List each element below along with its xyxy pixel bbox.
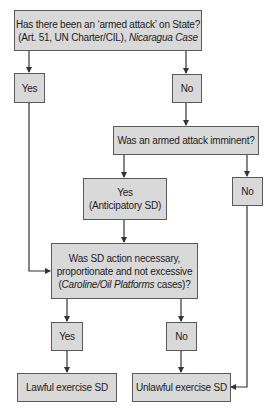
question-armed-attack-line2: (Art. 51, UN Charter/CIL), [18,32,129,43]
question-imminent-attack: Was an armed attack imminent? [113,126,259,155]
question-armed-attack-line1: Has there been an ‘armed attack’ on Stat… [16,19,200,30]
outcome-lawful: Lawful exercise SD [17,373,117,402]
answer-yes-anticipatory-line1: Yes [117,187,133,198]
answer-yes-anticipatory: Yes (Anticipatory SD) [83,178,167,220]
nicaragua-case-citation: Nicaragua Case [129,32,198,43]
answer-no-necessity: No [166,322,197,351]
question-necessity-line3-close: cases)? [154,279,190,290]
answer-yes-necessity: Yes [51,322,83,351]
question-imminent-attack-text: Was an armed attack imminent? [117,134,254,147]
answer-yes-label: Yes [22,82,38,95]
answer-yes-anticipatory-line2: (Anticipatory SD) [89,200,161,211]
answer-no-armed-attack: No [172,74,202,103]
question-necessity-line2: proportionate and not excessive [57,266,193,277]
answer-no-label: No [181,82,193,95]
answer-yes-armed-attack: Yes [14,73,45,103]
outcome-unlawful: Unlawful exercise SD [132,373,231,402]
question-necessity-line1: Was SD action necessary, [69,253,180,264]
outcome-unlawful-label: Unlawful exercise SD [136,381,227,394]
answer-yes-necessity-label: Yes [59,330,75,343]
answer-no-imminent: No [232,177,263,206]
answer-no-necessity-label: No [175,330,187,343]
question-armed-attack: Has there been an ‘armed attack’ on Stat… [14,10,202,51]
answer-no-imminent-label: No [241,185,253,198]
caroline-oil-platforms-citation: Caroline/Oil Platforms [62,279,155,290]
question-necessity-proportionality: Was SD action necessary, proportionate a… [51,243,198,299]
outcome-lawful-label: Lawful exercise SD [26,381,108,394]
